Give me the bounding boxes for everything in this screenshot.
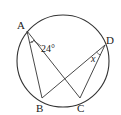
- point-label-a: A: [17, 19, 25, 31]
- angle-arc-d: [97, 52, 101, 55]
- geometry-diagram: A B C D 24° x: [0, 0, 121, 115]
- angle-label-x: x: [90, 53, 96, 64]
- angle-label-24: 24°: [41, 43, 55, 54]
- angle-a-dot: [31, 41, 33, 43]
- angle-a-leader: [33, 40, 41, 46]
- point-label-b: B: [36, 102, 43, 114]
- point-label-c: C: [77, 102, 84, 114]
- point-label-d: D: [106, 34, 114, 46]
